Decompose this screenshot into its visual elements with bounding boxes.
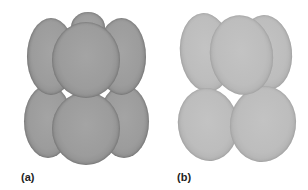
panel-b-label: (b) (177, 171, 191, 183)
panel-a-label: (a) (21, 171, 34, 183)
sphere-top-front (52, 22, 120, 98)
panel-b: (b) (154, 0, 308, 190)
sphere-bottom-front (52, 92, 120, 165)
panel-a: (a) (0, 0, 154, 190)
ellipsoid-bottom-right (225, 82, 301, 166)
